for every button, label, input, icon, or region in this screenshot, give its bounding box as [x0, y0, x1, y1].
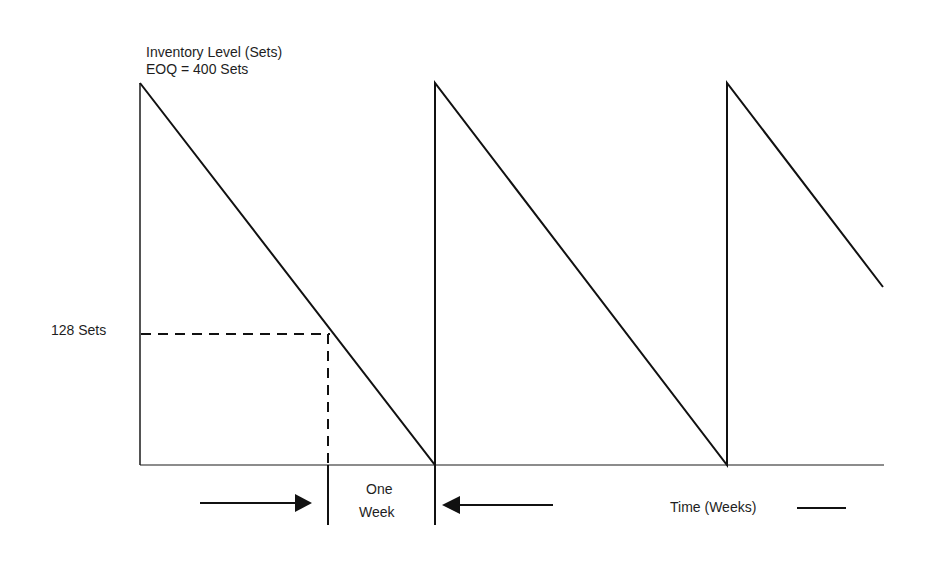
- week-label: Week: [359, 504, 395, 521]
- inventory-line: [140, 83, 883, 465]
- one-label: One: [366, 481, 392, 498]
- right-arrow-head: [295, 494, 312, 512]
- y-axis-title: Inventory Level (Sets): [146, 44, 282, 61]
- inventory-chart: [0, 0, 937, 569]
- reorder-level-label: 128 Sets: [51, 322, 106, 339]
- left-arrow-head: [442, 496, 460, 514]
- time-axis-label: Time (Weeks): [670, 499, 756, 516]
- eoq-label: EOQ = 400 Sets: [146, 61, 248, 78]
